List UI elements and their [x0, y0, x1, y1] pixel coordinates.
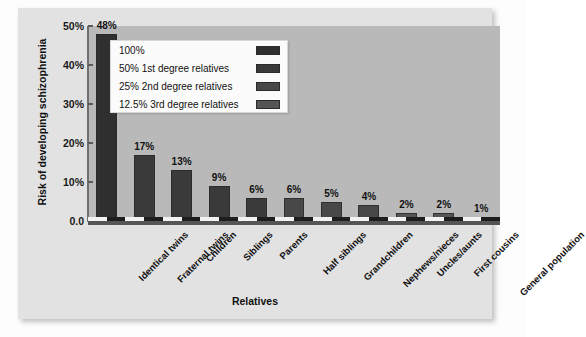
legend-entry: 12.5% 3rd degree relatives — [111, 96, 287, 113]
x-axis-tick-segment — [275, 217, 294, 221]
legend-entry-swatch — [256, 82, 280, 91]
x-axis-tick-segment — [481, 217, 500, 221]
x-axis-tick-blocks — [88, 217, 500, 221]
y-axis-tick-label: 20% — [50, 138, 84, 148]
x-axis-tick-segment — [369, 217, 388, 221]
legend-entry-swatch — [256, 100, 280, 109]
legend: 100%50% 1st degree relatives25% 2nd degr… — [110, 40, 288, 113]
y-axis-title: Risk of developing schizophrenia — [36, 22, 48, 222]
x-axis-tick-segment — [163, 217, 182, 221]
bar-slot: 4% — [358, 26, 379, 221]
x-axis-title: Relatives — [18, 295, 492, 307]
x-axis-tick-segment — [125, 217, 144, 221]
chart-panel: 50%40%30%20%10%0.0 Risk of developing sc… — [18, 8, 492, 319]
y-axis-tick-label: 10% — [50, 177, 84, 187]
legend-entry-label: 100% — [119, 45, 145, 56]
legend-entry-swatch — [256, 64, 280, 73]
x-axis-tick-segment — [406, 217, 425, 221]
bar-value-label: 13% — [163, 156, 200, 167]
x-axis-tick-segment — [144, 217, 163, 221]
bar-value-label: 4% — [350, 191, 387, 202]
x-axis-tick-segment — [444, 217, 463, 221]
bar-value-label: 5% — [313, 188, 350, 199]
x-axis-label: Parents — [277, 229, 309, 261]
legend-entry-swatch — [256, 46, 280, 55]
legend-entry: 50% 1st degree relatives — [111, 60, 287, 77]
x-axis-tick-segment — [313, 217, 332, 221]
y-axis-tick-label: 40% — [50, 60, 84, 70]
bar — [171, 170, 192, 221]
bar-value-label: 48% — [88, 20, 125, 31]
bar-value-label: 6% — [238, 184, 275, 195]
bar-value-label: 17% — [126, 141, 163, 152]
legend-entry-label: 50% 1st degree relatives — [119, 63, 229, 74]
legend-entry-label: 25% 2nd degree relatives — [119, 81, 232, 92]
bar-slot: 1% — [471, 26, 492, 221]
bar-slot: 5% — [321, 26, 342, 221]
bar-value-label: 9% — [201, 172, 238, 183]
x-axis-tick-segment — [182, 217, 201, 221]
legend-entry-label: 12.5% 3rd degree relatives — [119, 99, 239, 110]
x-axis-tick-segment — [332, 217, 351, 221]
legend-entry: 25% 2nd degree relatives — [111, 78, 287, 95]
x-axis-tick-segment — [200, 217, 219, 221]
bar-slot: 2% — [396, 26, 417, 221]
bar-value-label: 1% — [463, 203, 500, 214]
y-axis-tick-label: 30% — [50, 99, 84, 109]
bar-value-label: 2% — [425, 199, 462, 210]
x-axis-label: General population — [517, 229, 586, 298]
x-axis-tick-segment — [219, 217, 238, 221]
x-axis-tick-segment — [88, 217, 107, 221]
x-axis-tick-segment — [107, 217, 126, 221]
y-axis-tick-label: 0.0 — [50, 216, 84, 226]
x-axis-tick-segment — [425, 217, 444, 221]
bar-value-label: 6% — [276, 184, 313, 195]
x-axis-tick-segment — [388, 217, 407, 221]
x-axis-tick-segment — [350, 217, 369, 221]
x-axis-tick-segment — [257, 217, 276, 221]
legend-entry: 100% — [111, 42, 287, 59]
x-axis-tick-segment — [463, 217, 482, 221]
y-axis-tick-label: 50% — [50, 21, 84, 31]
x-axis-label: Half siblings — [321, 229, 369, 277]
bar — [209, 186, 230, 221]
x-axis-tick-segment — [294, 217, 313, 221]
bar-slot: 2% — [433, 26, 454, 221]
bar — [134, 155, 155, 221]
x-axis-tick-segment — [238, 217, 257, 221]
bar-value-label: 2% — [388, 199, 425, 210]
y-axis-tick-labels: 50%40%30%20%10%0.0 — [44, 8, 84, 319]
x-axis-label: Siblings — [240, 229, 274, 263]
